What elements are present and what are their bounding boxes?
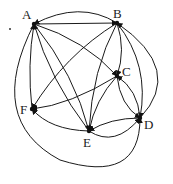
node-label-f: F xyxy=(20,102,27,117)
node-label-a: A xyxy=(22,7,32,22)
edge-b-to-a xyxy=(34,12,117,24)
edge-b-to-c xyxy=(117,23,122,76)
edge-c-to-d xyxy=(117,76,140,118)
node-c xyxy=(115,74,119,78)
edge-e-to-a xyxy=(34,24,89,131)
node-label-b: B xyxy=(113,6,122,21)
node-label-d: D xyxy=(144,117,153,132)
node-a xyxy=(32,22,36,26)
edge-d-to-c xyxy=(117,76,140,118)
edge-a-to-e xyxy=(34,24,89,131)
node-d xyxy=(138,116,142,120)
node-label-e: E xyxy=(83,135,91,150)
edge-b-to-f xyxy=(32,23,117,109)
edge-f-to-a xyxy=(30,24,34,109)
edge-d-to-e xyxy=(89,118,140,131)
node-e xyxy=(87,129,91,133)
directed-graph: ABCDEF xyxy=(0,0,173,184)
node-f xyxy=(30,107,34,111)
stray-dot xyxy=(9,28,11,30)
edge-a-to-b xyxy=(34,23,117,24)
node-b xyxy=(115,21,119,25)
node-label-c: C xyxy=(122,64,131,79)
